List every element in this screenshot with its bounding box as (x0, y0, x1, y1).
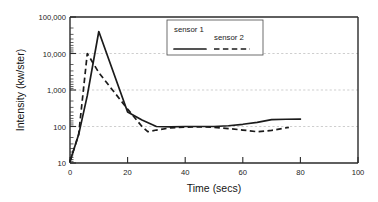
y-tick-label-100: 100 (53, 123, 66, 132)
intensity-vs-time-line-chart: 100,000 10,000 1,000 100 10 0 20 40 60 8… (0, 0, 378, 202)
x-axis-tick-labels: 0 20 40 60 80 100 (68, 168, 364, 177)
y-tick-label-10: 10 (58, 159, 66, 168)
legend: sensor 1 sensor 2 (167, 20, 263, 55)
x-tick-label-100: 100 (352, 168, 365, 177)
chart-figure: 100,000 10,000 1,000 100 10 0 20 40 60 8… (0, 0, 378, 202)
x-tick-label-40: 40 (181, 168, 189, 177)
x-axis-title: Time (secs) (187, 182, 241, 194)
x-tick-label-60: 60 (239, 168, 247, 177)
legend-label-sensor-1: sensor 1 (174, 25, 204, 34)
x-tick-label-0: 0 (68, 168, 72, 177)
y-tick-label-10000: 10,000 (43, 50, 66, 59)
x-tick-label-20: 20 (123, 168, 131, 177)
y-axis-tick-labels: 100,000 10,000 1,000 100 10 (39, 13, 66, 168)
legend-label-sensor-2: sensor 2 (214, 33, 244, 42)
y-tick-label-100000: 100,000 (39, 13, 66, 22)
y-axis-title: Intensity (kw/ster) (14, 49, 26, 131)
x-tick-label-80: 80 (296, 168, 304, 177)
y-tick-label-1000: 1,000 (47, 86, 66, 95)
